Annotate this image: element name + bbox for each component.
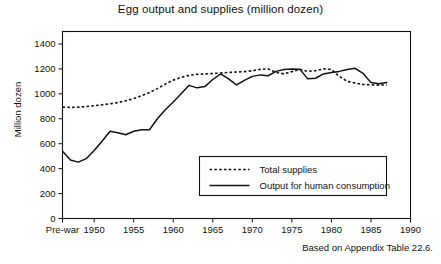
x-tick-label: 1975 [281,224,302,235]
legend-label: Output for human consumption [260,180,390,191]
y-tick-label: 400 [40,163,56,174]
chart-legend: Total suppliesOutput for human consumpti… [200,157,390,196]
x-tick-label: 1950 [84,224,105,235]
x-tick-label: 1990 [400,224,421,235]
chart-figure: Egg output and supplies (million dozen) … [0,0,441,264]
x-tick-label: 1960 [163,224,184,235]
chart-title: Egg output and supplies (million dozen) [0,3,441,15]
series-line-total-supplies [63,69,387,108]
y-tick-label: 0 [50,213,55,224]
x-tick-label: 1980 [321,224,342,235]
y-tick-label: 1200 [34,63,55,74]
y-tick-label: 800 [40,113,56,124]
x-axis-ticks: Pre-war195019551960196519701975198019851… [46,219,421,236]
x-tick-label: 1970 [242,224,263,235]
x-tick-label: 1955 [123,224,144,235]
y-tick-label: 600 [40,138,56,149]
x-tick-label: 1985 [360,224,381,235]
y-axis-title: Million dozen [12,65,23,155]
series-line-output-for-human-consumption [63,68,387,162]
y-tick-label: 1400 [34,38,55,49]
y-tick-label: 200 [40,188,56,199]
x-tick-label: 1965 [202,224,223,235]
x-tick-label: Pre-war [46,224,79,235]
chart-caption: Based on Appendix Table 22.6. [302,242,433,253]
legend-label: Total supplies [260,164,318,175]
plot-area: 0200400600800100012001400 Pre-war1950195… [0,0,441,264]
y-tick-label: 1000 [34,88,55,99]
y-axis-ticks: 0200400600800100012001400 [34,38,62,224]
